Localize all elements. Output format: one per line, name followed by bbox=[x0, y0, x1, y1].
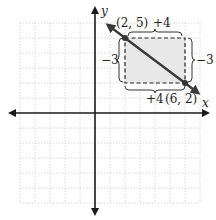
top-run-label: +4 bbox=[153, 16, 171, 30]
left-rise-label: −3 bbox=[101, 53, 119, 67]
point-label-2-5: (2, 5) bbox=[116, 16, 148, 30]
coordinate-plane: y x (2, 5) +4 −3 −3 +4 (6, 2) bbox=[0, 0, 216, 220]
right-brace bbox=[188, 38, 195, 82]
right-rise-label: −3 bbox=[196, 53, 214, 67]
point-label-6-2: (6, 2) bbox=[165, 92, 197, 106]
y-axis-label: y bbox=[100, 4, 108, 18]
x-axis-label: x bbox=[202, 96, 209, 110]
point-6-2 bbox=[182, 80, 188, 86]
bottom-run-label: +4 bbox=[146, 92, 164, 106]
